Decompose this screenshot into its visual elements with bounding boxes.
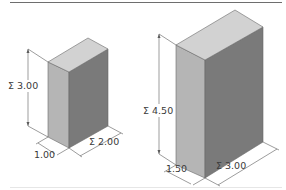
small-box-width-label: Σ 2.00: [89, 136, 119, 147]
large-box: Σ 4.50 1.50 Σ 3.00: [143, 10, 279, 186]
small-box-left-face: [48, 62, 69, 148]
small-box: Σ 3.00 1.00 Σ 2.00: [8, 38, 123, 160]
isometric-boxes-diagram: Σ 3.00 1.00 Σ 2.00: [0, 0, 286, 190]
large-box-depth-label: 1.50: [166, 163, 187, 174]
small-box-height-dimension: Σ 3.00: [8, 49, 48, 137]
large-box-width-label: Σ 3.00: [216, 160, 246, 171]
large-box-height-dimension: Σ 4.50: [143, 34, 176, 165]
large-box-left-face: [176, 45, 205, 178]
large-box-height-label: Σ 4.50: [143, 105, 173, 116]
small-box-height-label: Σ 3.00: [8, 80, 38, 91]
small-box-depth-label: 1.00: [34, 149, 55, 160]
